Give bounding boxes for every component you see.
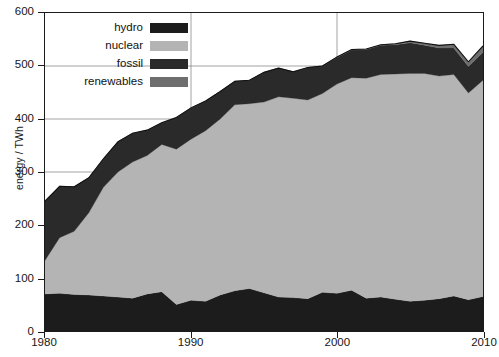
y-tick-label: 200 — [0, 219, 34, 231]
x-tick-label: 2000 — [307, 337, 367, 349]
y-axis-title: energy / TWh — [13, 113, 25, 203]
y-tick-label: 400 — [0, 113, 34, 125]
chart-legend: hydronuclearfossilrenewables — [66, 20, 188, 92]
legend-item-label: hydro — [114, 22, 143, 34]
x-tick-label: 2010 — [454, 337, 499, 349]
area-series-nuclear — [45, 73, 483, 304]
legend-item-label: nuclear — [105, 40, 143, 52]
legend-item-renewables[interactable]: renewables — [66, 74, 188, 90]
chart-figure: energy / TWh 6005004003002001000 1980199… — [0, 0, 499, 357]
x-tick-mark — [191, 332, 192, 338]
x-tick-label: 1990 — [161, 337, 221, 349]
y-tick-label: 500 — [0, 59, 34, 71]
x-tick-label: 1980 — [14, 337, 74, 349]
x-tick-mark — [44, 332, 45, 338]
legend-swatch-fossil — [150, 59, 188, 69]
x-tick-mark — [337, 332, 338, 338]
legend-swatch-nuclear — [150, 41, 188, 51]
x-tick-mark — [484, 332, 485, 338]
legend-swatch-hydro — [150, 23, 188, 33]
y-tick-label: 300 — [0, 166, 34, 178]
legend-item-hydro[interactable]: hydro — [66, 20, 188, 36]
y-tick-label: 100 — [0, 273, 34, 285]
legend-item-label: fossil — [117, 58, 143, 70]
legend-item-nuclear[interactable]: nuclear — [66, 38, 188, 54]
legend-swatch-renewables — [150, 77, 188, 87]
y-tick-label: 600 — [0, 6, 34, 18]
legend-item-fossil[interactable]: fossil — [66, 56, 188, 72]
y-tick-label: 0 — [0, 326, 34, 338]
legend-item-label: renewables — [84, 76, 143, 88]
